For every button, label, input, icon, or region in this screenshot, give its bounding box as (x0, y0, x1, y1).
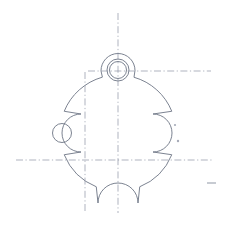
punch-mark-lower-dot (177, 140, 179, 142)
drawing-svg (0, 0, 235, 230)
part-silhouette-outline (62, 54, 172, 204)
punch-mark-upper-dot (174, 124, 176, 126)
technical-drawing-canvas (0, 0, 235, 230)
